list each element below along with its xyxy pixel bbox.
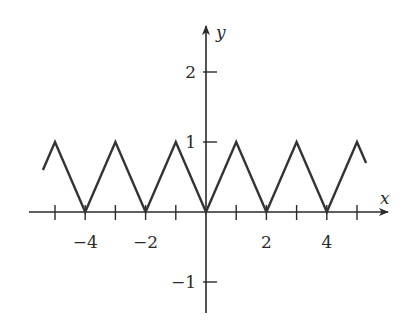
y-tick-label: −1 xyxy=(171,272,196,292)
data-curve xyxy=(43,142,366,212)
x-tick-label: 4 xyxy=(321,232,332,252)
x-tick-label: −4 xyxy=(73,232,98,252)
triangle-wave-line xyxy=(43,142,366,212)
x-tick-label: 2 xyxy=(261,232,272,252)
y-tick-label: 2 xyxy=(185,62,196,82)
axis-labels: −4−22421−1xy xyxy=(73,22,390,292)
x-axis-label: x xyxy=(380,188,390,208)
triangle-wave-plot: −4−22421−1xy xyxy=(0,0,413,325)
y-tick-label: 1 xyxy=(185,132,196,152)
x-tick-label: −2 xyxy=(133,232,158,252)
y-axis-label: y xyxy=(215,22,226,42)
axes xyxy=(29,26,388,313)
